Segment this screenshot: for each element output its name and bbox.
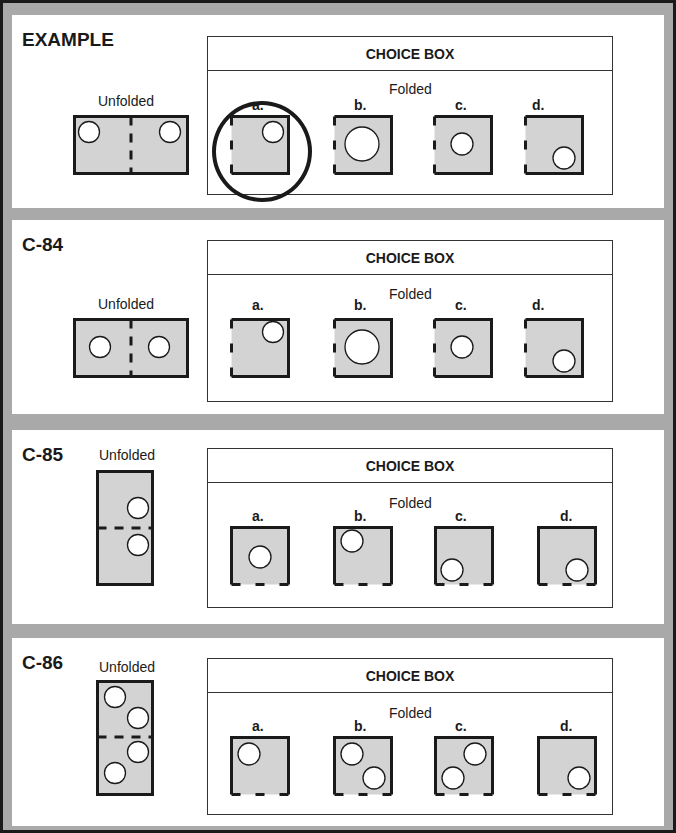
option-label-d: d. (532, 97, 544, 113)
unfolded-label: Unfolded (99, 447, 155, 463)
option-label-c: c. (455, 508, 467, 524)
choice-box-header: CHOICE BOX (208, 659, 612, 693)
unfolded-paper (73, 115, 189, 175)
unfolded-label: Unfolded (98, 93, 154, 109)
option-c-folded[interactable] (434, 526, 494, 586)
option-d-folded[interactable] (537, 526, 597, 586)
panel-c-86: C-86 Unfolded CHOICE BOX Folded a. b. c.… (12, 638, 664, 826)
choice-box-header: CHOICE BOX (208, 449, 612, 483)
option-label-b: b. (354, 97, 366, 113)
answer-circle-marker (212, 101, 312, 202)
option-label-b: b. (354, 297, 366, 313)
choice-box-header: CHOICE BOX (208, 37, 612, 71)
option-b-folded[interactable] (333, 115, 393, 175)
option-a-folded[interactable] (230, 736, 290, 796)
unfolded-label: Unfolded (99, 659, 155, 675)
option-c-folded[interactable] (434, 736, 494, 796)
option-c-folded[interactable] (433, 115, 493, 175)
option-a-folded[interactable] (230, 318, 290, 378)
folded-label: Folded (389, 81, 432, 97)
panel-c-84: C-84 Unfolded CHOICE BOX Folded a. b. c.… (12, 220, 664, 414)
option-c-folded[interactable] (433, 318, 493, 378)
option-label-d: d. (560, 508, 572, 524)
option-label-a: a. (252, 718, 264, 734)
folded-label: Folded (389, 286, 432, 302)
option-b-folded[interactable] (333, 318, 393, 378)
panel-example: EXAMPLE Unfolded CHOICE BOX Folded a. b.… (12, 15, 664, 208)
option-label-a: a. (252, 297, 264, 313)
option-d-folded[interactable] (524, 115, 584, 175)
folded-label: Folded (389, 495, 432, 511)
option-d-folded[interactable] (524, 318, 584, 378)
option-b-folded[interactable] (333, 526, 393, 586)
option-label-d: d. (532, 297, 544, 313)
unfolded-paper (73, 318, 189, 378)
option-label-b: b. (354, 718, 366, 734)
unfolded-paper (96, 680, 154, 796)
option-label-c: c. (455, 297, 467, 313)
panel-title: C-86 (22, 652, 63, 674)
panel-c-85: C-85 Unfolded CHOICE BOX Folded a. b. c.… (12, 430, 664, 624)
folded-label: Folded (389, 705, 432, 721)
panel-title: EXAMPLE (22, 29, 114, 51)
option-a-folded[interactable] (230, 526, 290, 586)
unfolded-label: Unfolded (98, 296, 154, 312)
option-label-a: a. (252, 508, 264, 524)
option-label-b: b. (354, 508, 366, 524)
option-label-c: c. (455, 97, 467, 113)
option-d-folded[interactable] (537, 736, 597, 796)
unfolded-paper (96, 470, 154, 586)
panel-title: C-84 (22, 234, 63, 256)
option-b-folded[interactable] (333, 736, 393, 796)
panel-title: C-85 (22, 444, 63, 466)
option-label-d: d. (560, 718, 572, 734)
option-label-c: c. (455, 718, 467, 734)
choice-box-header: CHOICE BOX (208, 241, 612, 275)
